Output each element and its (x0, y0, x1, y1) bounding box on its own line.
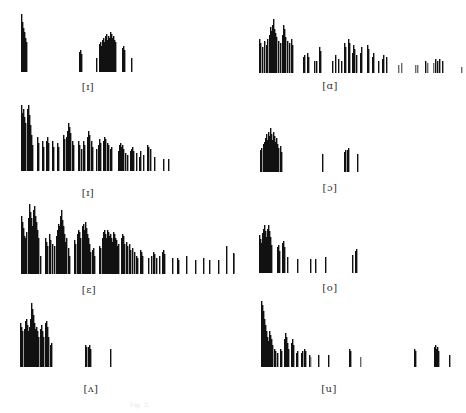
spectrum-bar (288, 349, 289, 367)
spectrum-bar (320, 51, 321, 73)
spectrum-bar (54, 246, 55, 274)
spectrum-bar (164, 254, 165, 274)
spectrum-bar (127, 246, 128, 274)
spectrum-bar (132, 248, 133, 274)
figure-caption: Fig. 3. (130, 401, 149, 408)
spectrum-bar (226, 246, 227, 274)
spectrum-bar (154, 157, 155, 171)
spectrum-bar (73, 145, 74, 171)
spectrum-bar (136, 153, 137, 171)
spectrum-bar (47, 246, 48, 274)
spectrum-bar (356, 55, 357, 73)
spectrum-bar (111, 147, 112, 171)
spectrum-bar (178, 260, 179, 274)
spectrum-bar (96, 149, 97, 171)
spectrum-bar (40, 256, 41, 274)
panel-label-1: [ɪ] (68, 81, 108, 92)
spectrum-bar (195, 260, 196, 274)
spectrum-bar (51, 343, 52, 367)
spectrum-bar (43, 147, 44, 171)
spectrum-bar (131, 58, 132, 72)
spectrum-bar (348, 148, 349, 172)
spectrum-bar (310, 357, 311, 367)
spectrum-bar (297, 259, 298, 273)
spectrum-bar (80, 238, 81, 274)
spectrum-bar (105, 139, 106, 171)
spectrum-bar (81, 149, 82, 171)
spectrum-bar (449, 355, 450, 367)
spectrum-bar (322, 154, 323, 172)
spectrum-bar (69, 256, 70, 274)
spectrum-bar (305, 351, 306, 367)
spectrum-bar (338, 59, 339, 73)
spectrum-panel-1 (21, 14, 132, 72)
spectrum-bar (168, 159, 169, 171)
spectrum-bar (53, 147, 54, 171)
spectrum-bar (398, 65, 399, 73)
spectrum-bar (433, 63, 434, 73)
spectrum-bar (38, 337, 39, 367)
panel-label-6: [o] (310, 282, 350, 293)
spectrum-bar (43, 337, 44, 367)
spectrum-bar (22, 331, 23, 367)
spectrum-bar (151, 256, 152, 274)
spectrum-bar (318, 355, 319, 367)
spectrum-bar (285, 37, 286, 73)
spectrum-bar (345, 47, 346, 73)
spectrum-bar (437, 61, 438, 73)
spectrum-bar (25, 123, 26, 171)
panel-label-7: [ʌ] (71, 383, 111, 394)
spectrum-bar (142, 256, 143, 274)
spectrum-bar (209, 260, 210, 274)
spectrum-bar (264, 41, 265, 73)
spectrum-bar (292, 45, 293, 73)
spectrum-bar (316, 61, 317, 73)
spectrum-bar (203, 258, 204, 274)
spectrum-bar (127, 155, 128, 171)
spectrum-bar (26, 232, 27, 274)
spectrum-bar (75, 244, 76, 274)
spectrum-bar (332, 61, 333, 73)
spectrum-bar (70, 133, 71, 171)
spectrum-panel-6 (233, 225, 357, 273)
spectrum-bar (89, 135, 90, 171)
spectrum-bar (315, 259, 316, 273)
spectrum-bar (143, 155, 144, 171)
spectrum-bar (58, 147, 59, 171)
spectrum-bar (425, 61, 426, 73)
spectrum-bar (386, 57, 387, 73)
spectrum-bar (349, 43, 350, 73)
spectrum-bar (272, 345, 273, 367)
spectrum-bar (325, 257, 326, 273)
spectrum-bar (48, 143, 49, 171)
spectrum-bar (439, 59, 440, 73)
spectrum-bar (81, 54, 82, 72)
spectrum-bar (341, 61, 342, 73)
spectrum-bar (308, 57, 309, 73)
spectrum-bar (442, 61, 443, 73)
spectra-figure (0, 0, 466, 413)
spectrum-bar (427, 63, 428, 73)
spectrum-bar (218, 260, 219, 274)
spectrum-bar (90, 252, 91, 274)
spectrum-bar (150, 149, 151, 171)
spectrum-bar (66, 238, 67, 274)
spectrum-bar (328, 355, 329, 367)
spectrum-bar (350, 351, 351, 367)
spectrum-bar (137, 258, 138, 274)
spectrum-bar (38, 143, 39, 171)
spectrum-bar (279, 251, 280, 273)
spectrum-bar (262, 47, 263, 73)
panel-label-8: [u] (309, 383, 349, 394)
spectrum-bar (84, 145, 85, 171)
spectrum-bar (124, 50, 125, 72)
spectrum-bar (368, 49, 369, 73)
spectrum-bar (130, 250, 131, 274)
spectrum-bar (261, 148, 262, 172)
panel-label-5: [ɛ] (69, 284, 109, 295)
spectrum-bar (278, 41, 279, 73)
spectrum-bar (92, 147, 93, 171)
spectrum-bar (417, 65, 418, 73)
spectrum-bar (314, 61, 315, 73)
spectrum-bar (125, 153, 126, 171)
